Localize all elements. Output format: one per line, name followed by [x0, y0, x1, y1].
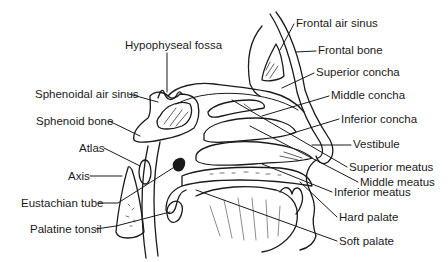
label-atlas: Atlas [79, 143, 105, 155]
tongue-hatching [210, 198, 280, 240]
anatomy-diagram: Hypophyseal fossa Sphenoidal air sinus S… [0, 0, 448, 262]
sphenoid-bone-shape [134, 92, 199, 142]
frontal-bone-outline [249, 12, 333, 164]
inferior-concha-shape [196, 142, 312, 166]
frontal-sinus-hatching [266, 62, 278, 78]
leader-lines [90, 24, 358, 241]
tongue-shape [196, 187, 297, 252]
label-inferior-concha: Inferior concha [341, 114, 417, 126]
palate-stipple [210, 172, 281, 175]
leader-middle-meatus [250, 126, 358, 182]
label-frontal-bone: Frontal bone [318, 45, 383, 57]
soft-palate-shape [166, 186, 186, 213]
label-soft-palate: Soft palate [339, 236, 394, 248]
sphenoid-hatching [164, 108, 188, 126]
leader-palatine-tonsil [96, 212, 170, 229]
label-axis: Axis [68, 171, 90, 183]
leader-inferior-concha [290, 119, 339, 134]
palatine-tonsil-shape [167, 201, 183, 222]
leader-frontal-bone [296, 51, 316, 52]
label-middle-concha: Middle concha [331, 90, 405, 102]
label-inferior-meatus: Inferior meatus [334, 187, 411, 199]
upper-teeth [280, 188, 303, 214]
leader-eustachian-tube [98, 166, 176, 203]
leader-superior-concha [282, 73, 314, 88]
eustachian-tube-opening [173, 158, 184, 170]
pharynx-wall [154, 142, 160, 256]
sphenoidal-air-sinus-shape [157, 103, 191, 130]
label-sphenoidal-air-sinus: Sphenoidal air sinus [35, 89, 139, 101]
middle-concha-shape [204, 118, 296, 142]
label-sphenoid-bone: Sphenoid bone [36, 116, 113, 128]
label-palatine-tonsil: Palatine tonsil [30, 224, 102, 236]
leader-hard-palate [300, 182, 337, 217]
label-vestibule: Vestibule [353, 139, 400, 151]
label-hypophyseal-fossa: Hypophyseal fossa [125, 40, 222, 52]
label-superior-meatus: Superior meatus [349, 162, 433, 174]
leader-sphenoid-bone [109, 121, 140, 136]
label-frontal-air-sinus: Frontal air sinus [296, 18, 378, 30]
label-superior-concha: Superior concha [316, 67, 400, 79]
label-hard-palate: Hard palate [339, 212, 398, 224]
leader-atlas [104, 148, 140, 166]
label-eustachian-tube: Eustachian tube [21, 198, 103, 210]
leader-superior-meatus [232, 100, 347, 167]
